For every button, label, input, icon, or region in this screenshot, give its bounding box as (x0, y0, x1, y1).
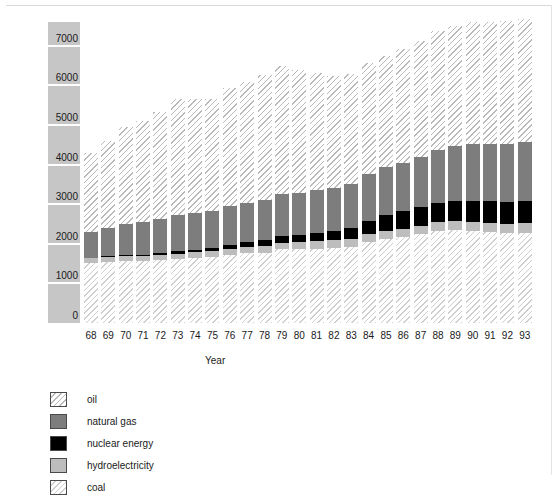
bar-68[interactable] (84, 153, 98, 323)
y-tick-label: 2000 (56, 232, 78, 242)
bar-segment-hydroelectricity (171, 254, 185, 259)
y-tick-separator (48, 164, 80, 166)
bar-segment-coal (223, 255, 237, 323)
bar-segment-oil (119, 127, 133, 224)
bar-segment-oil (396, 49, 410, 163)
y-axis-band: 01000200030004000500060007000 (48, 22, 80, 323)
bar-segment-coal (119, 261, 133, 323)
bar-segment-hydroelectricity (518, 223, 532, 233)
bar-segment-nuclear-energy (101, 256, 115, 257)
bar-segment-natural-gas (136, 222, 150, 255)
y-tick-label: 0 (72, 311, 78, 321)
bar-segment-natural-gas (448, 146, 462, 201)
bar-segment-hydroelectricity (431, 222, 445, 231)
bar-90[interactable] (466, 22, 480, 323)
bar-75[interactable] (205, 99, 219, 323)
bar-80[interactable] (292, 70, 306, 323)
bar-segment-nuclear-energy (310, 233, 324, 242)
bar-segment-nuclear-energy (258, 240, 272, 246)
bar-segment-oil (344, 74, 358, 184)
bar-segment-nuclear-energy (136, 255, 150, 257)
bar-84[interactable] (362, 63, 376, 323)
bar-86[interactable] (396, 49, 410, 323)
bar-segment-natural-gas (466, 144, 480, 201)
dark-gray-swatch (50, 414, 67, 429)
bar-73[interactable] (171, 99, 185, 323)
bar-82[interactable] (327, 76, 341, 323)
bar-71[interactable] (136, 121, 150, 323)
bar-segment-natural-gas (240, 203, 254, 242)
bar-83[interactable] (344, 74, 358, 323)
bar-segment-natural-gas (119, 224, 133, 255)
bar-segment-oil (240, 82, 254, 203)
bar-segment-hydroelectricity (396, 229, 410, 237)
figure-top-rule (6, 5, 551, 6)
bar-segment-coal (84, 263, 98, 323)
bar-77[interactable] (240, 82, 254, 323)
bar-segment-coal (483, 232, 497, 323)
bar-89[interactable] (448, 26, 462, 323)
bar-78[interactable] (258, 75, 272, 323)
bar-segment-coal (310, 249, 324, 323)
y-tick-separator (48, 45, 80, 47)
bar-85[interactable] (379, 56, 393, 323)
bar-segment-coal (153, 260, 167, 323)
bar-segment-coal (258, 253, 272, 323)
bar-segment-hydroelectricity (205, 251, 219, 257)
bar-segment-natural-gas (483, 144, 497, 201)
bar-93[interactable] (518, 19, 532, 323)
y-tick-label: 5000 (56, 113, 78, 123)
bar-segment-nuclear-energy (448, 201, 462, 221)
bar-76[interactable] (223, 88, 237, 323)
bar-segment-oil (448, 26, 462, 147)
bar-72[interactable] (153, 112, 167, 323)
bar-segment-natural-gas (362, 174, 376, 221)
bar-segment-nuclear-energy (396, 211, 410, 228)
bar-69[interactable] (101, 141, 115, 323)
bar-segment-oil (431, 31, 445, 150)
y-tick-label: 6000 (56, 73, 78, 83)
bar-segment-oil (171, 99, 185, 215)
bar-segment-oil (188, 99, 202, 213)
bar-segment-natural-gas (379, 167, 393, 215)
bar-segment-coal (205, 257, 219, 323)
bar-segment-coal (500, 233, 514, 323)
bar-88[interactable] (431, 31, 445, 323)
bar-segment-hydroelectricity (84, 258, 98, 262)
bar-70[interactable] (119, 127, 133, 323)
bar-segment-natural-gas (431, 150, 445, 203)
bar-92[interactable] (500, 21, 514, 323)
bar-segment-coal (275, 249, 289, 323)
bar-segment-coal (379, 239, 393, 323)
bar-87[interactable] (414, 41, 428, 323)
bar-segment-coal (362, 242, 376, 323)
bar-segment-nuclear-energy (188, 250, 202, 253)
bar-segment-coal (414, 234, 428, 323)
figure-right-rule (551, 5, 552, 475)
bar-segment-nuclear-energy (431, 203, 445, 222)
bar-segment-hydroelectricity (500, 224, 514, 234)
bar-segment-natural-gas (327, 188, 341, 230)
black-swatch (50, 436, 67, 451)
bar-segment-hydroelectricity (448, 221, 462, 230)
y-tick-separator (48, 203, 80, 205)
bar-segment-hydroelectricity (310, 241, 324, 248)
bar-segment-hydroelectricity (101, 257, 115, 262)
bar-segment-oil (223, 88, 237, 206)
bar-segment-nuclear-energy (119, 255, 133, 256)
bar-segment-oil (84, 153, 98, 232)
bar-74[interactable] (188, 99, 202, 323)
bar-segment-nuclear-energy (171, 251, 185, 253)
bar-segment-nuclear-energy (275, 236, 289, 242)
bar-segment-oil (483, 22, 497, 144)
bar-segment-coal (518, 233, 532, 323)
bar-segment-nuclear-energy (466, 201, 480, 222)
bar-segment-oil (101, 141, 115, 228)
legend-label: nuclear energy (87, 438, 153, 449)
bar-81[interactable] (310, 73, 324, 323)
bar-segment-oil (518, 19, 532, 142)
bar-79[interactable] (275, 66, 289, 323)
bar-segment-oil (275, 66, 289, 194)
bar-91[interactable] (483, 22, 497, 323)
